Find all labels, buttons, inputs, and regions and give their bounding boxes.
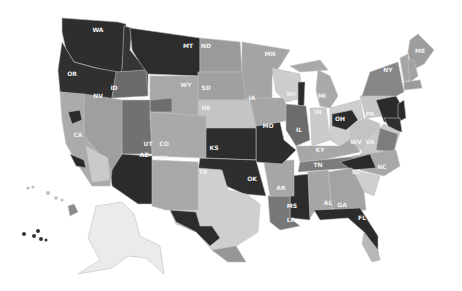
state-label-sd: SD [201,84,210,91]
state-label-nd: ND [201,42,211,49]
state-label-ny: NY [383,66,393,73]
state-label-id: ID [110,84,117,91]
state-label-al: AL [324,199,333,206]
state-label-wi: WI [287,90,296,97]
state-label-ok: OK [247,175,257,182]
state-label-tn: TN [313,161,322,168]
state-ak[interactable] [78,202,164,274]
state-label-ca: CA [73,131,82,138]
state-label-mo: MO [262,122,273,129]
island-2 [46,191,50,195]
state-label-pa: PA [366,110,375,117]
state-label-nm: NM [157,154,168,161]
state-label-ar: AR [276,184,286,191]
state-label-co: CO [159,140,169,147]
state-label-ks: KS [210,144,219,151]
island-6 [32,234,36,238]
state-ma[interactable] [404,80,422,90]
island-4 [60,198,63,201]
state-label-wa: WA [93,26,104,33]
state-label-sc: SC [352,168,361,175]
state-label-fl: FL [358,214,366,221]
state-miu[interactable] [290,60,328,72]
state-hi[interactable] [68,204,78,216]
island-9 [45,239,48,242]
state-il[interactable] [286,104,310,146]
state-label-ia: IA [249,94,256,101]
states-layer [58,18,434,274]
island-5 [22,232,26,236]
island-7 [36,229,40,233]
islands-layer [22,185,64,241]
state-label-mn: MN [265,50,276,57]
state-label-wv: WV [350,138,362,145]
state-label-nc: NC [377,163,387,170]
state-nm[interactable] [152,160,198,210]
state-wyd[interactable] [150,98,172,112]
state-label-ms: MS [287,202,297,209]
state-label-il: IL [296,126,302,133]
island-0 [26,186,29,189]
island-1 [31,185,34,188]
state-label-mi: MI [318,92,326,99]
state-mi[interactable] [316,70,338,108]
state-label-ky: KY [316,146,326,153]
us-choropleth-map: WAORIDMTNDWYSDNEMNIAWIMIILINOHKYTNPANYME… [0,0,462,291]
state-label-nv: NV [93,92,103,99]
state-label-in: IN [314,108,321,115]
state-label-va: VA [366,138,375,145]
state-label-ga: GA [337,201,347,208]
state-label-mt: MT [183,42,194,49]
island-3 [54,196,58,200]
state-label-la: LA [287,216,296,223]
state-label-az: AZ [140,151,150,158]
state-label-me: ME [415,47,425,54]
state-label-or: OR [67,70,77,77]
state-label-tx: TX [199,168,208,175]
state-label-ut: UT [144,140,154,147]
state-wie[interactable] [298,82,305,106]
state-co[interactable] [150,112,206,158]
state-label-oh: OH [335,115,345,122]
island-8 [39,237,43,241]
state-label-wy: WY [181,81,193,88]
state-label-ne: NE [201,104,210,111]
